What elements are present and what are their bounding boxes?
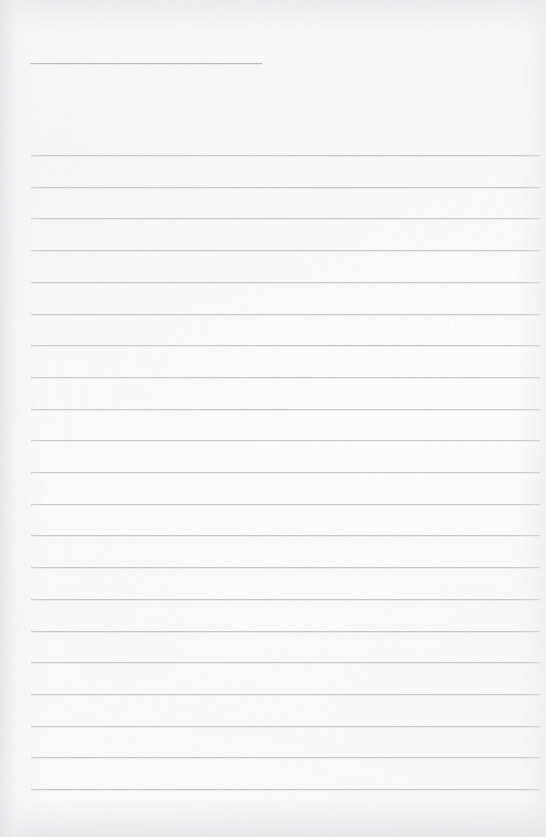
ruled-line: [31, 726, 540, 727]
ruled-line: [31, 631, 540, 632]
ruled-line: [31, 250, 540, 251]
ruled-line: [31, 377, 540, 378]
ruled-line: [31, 599, 540, 600]
ruled-line: [31, 409, 540, 410]
ruled-line: [31, 155, 540, 156]
ruled-line: [31, 694, 540, 695]
title-rule: [30, 63, 262, 64]
ruled-line: [31, 535, 540, 536]
ruled-line: [31, 314, 540, 315]
ruled-line: [31, 187, 540, 188]
ruled-line: [31, 472, 540, 473]
ruled-line: [31, 662, 540, 663]
ruled-line: [31, 789, 540, 790]
notepaper-page: [0, 0, 546, 837]
ruled-line: [31, 504, 540, 505]
ruled-line: [31, 345, 540, 346]
header-region: [0, 0, 546, 140]
ruled-line: [31, 218, 540, 219]
ruled-lines-region: [0, 140, 546, 837]
title-text: [0, 0, 1, 1]
ruled-line: [31, 757, 540, 758]
ruled-line: [31, 440, 540, 441]
ruled-line: [31, 567, 540, 568]
ruled-line: [31, 282, 540, 283]
